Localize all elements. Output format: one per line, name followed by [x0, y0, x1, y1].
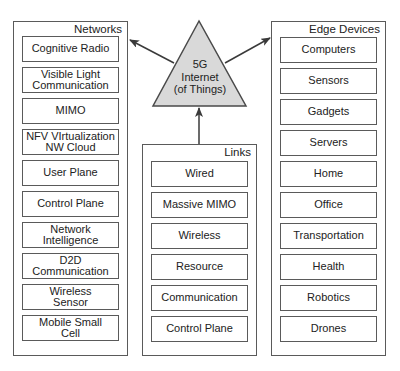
link-item: Resource	[151, 254, 248, 280]
networks-group: Networks Cognitive Radio Visible Light C…	[13, 21, 128, 356]
link-item: Control Plane	[151, 316, 248, 342]
edge-device-item: Servers	[280, 130, 377, 156]
links-group: Links Wired Massive MIMO Wireless Resour…	[142, 144, 257, 356]
network-item: User Plane	[22, 160, 119, 186]
network-item: Mobile Small Cell	[22, 315, 119, 341]
center-label-line: 5G	[160, 58, 240, 71]
network-item: Control Plane	[22, 191, 119, 217]
network-item: Cognitive Radio	[22, 36, 119, 62]
edge-devices-group: Edge Devices Computers Sensors Gadgets S…	[271, 21, 386, 356]
group-title: Networks	[74, 22, 122, 36]
network-item: MIMO	[22, 98, 119, 124]
network-item: NFV VIrtualization NW Cloud	[22, 129, 119, 155]
group-title: Edge Devices	[309, 22, 380, 36]
center-label: 5G Internet (of Things)	[160, 58, 240, 96]
edge-device-item: Gadgets	[280, 99, 377, 125]
edge-device-item: Home	[280, 161, 377, 187]
edge-device-item: Sensors	[280, 68, 377, 94]
group-title: Links	[224, 145, 251, 159]
center-label-line: (of Things)	[160, 83, 240, 96]
edge-device-item: Transportation	[280, 223, 377, 249]
edge-device-item: Drones	[280, 316, 377, 342]
network-item: Network Intelligence	[22, 222, 119, 248]
edge-device-item: Health	[280, 254, 377, 280]
center-label-line: Internet	[160, 71, 240, 84]
network-item: D2D Communication	[22, 253, 119, 279]
network-item: Wireless Sensor	[22, 284, 119, 310]
edge-device-item: Computers	[280, 37, 377, 63]
link-item: Wired	[151, 161, 248, 187]
link-item: Wireless	[151, 223, 248, 249]
link-item: Massive MIMO	[151, 192, 248, 218]
link-item: Communication	[151, 285, 248, 311]
edge-device-item: Robotics	[280, 285, 377, 311]
network-item: Visible Light Communication	[22, 67, 119, 93]
edge-device-item: Office	[280, 192, 377, 218]
